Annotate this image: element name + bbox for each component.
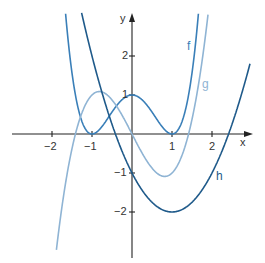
y-axis-label: y — [120, 13, 126, 24]
y-tick-label: 2 — [122, 50, 128, 61]
x-axis-label: x — [240, 137, 246, 148]
x-tick-label: −2 — [44, 141, 57, 152]
series-label-h: h — [216, 170, 223, 182]
y-tick-label: −2 — [114, 206, 127, 217]
curve-h — [82, 13, 250, 212]
series-label-f: f — [187, 40, 190, 52]
x-tick-label: 2 — [209, 141, 215, 152]
y-tick-label: 1 — [122, 89, 128, 100]
y-axis-arrow-icon — [129, 13, 135, 22]
axes — [12, 18, 248, 258]
series-label-g: g — [202, 78, 209, 90]
x-tick-label: −1 — [84, 141, 97, 152]
function-plot — [0, 0, 265, 263]
x-tick-label: 1 — [169, 141, 175, 152]
y-tick-label: −1 — [114, 167, 127, 178]
